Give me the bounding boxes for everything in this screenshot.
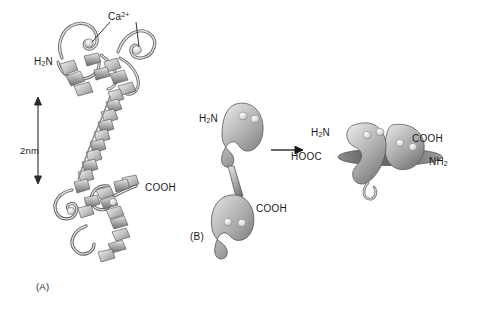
- panel-b-left-c-terminus-label: COOH: [256, 203, 287, 214]
- panel-a-graphics: [0, 0, 477, 311]
- panel-a-c-terminus-label: COOH: [145, 182, 176, 193]
- calcium-label: Ca2+: [108, 11, 130, 22]
- panel-a-n-terminus-label: H2N: [34, 56, 53, 67]
- scale-bar-label: 2nm: [20, 145, 39, 156]
- panel-b-right-hooc-label: HOOC: [291, 151, 322, 162]
- panel-b-extended-structure: [207, 103, 263, 260]
- panel-b-left-n-terminus-label: H2N: [199, 113, 218, 124]
- panel-a-central-helix: [74, 89, 124, 193]
- panel-a-label: (A): [36, 281, 49, 292]
- panel-b-label: (B): [190, 231, 204, 242]
- calmodulin-figure: Ca2+ H2N COOH 2nm (A) (B) H2N COOH H2N H…: [0, 0, 477, 311]
- panel-b-right-cooh-label: COOH: [412, 133, 443, 144]
- scale-bar: [35, 97, 42, 184]
- panel-b-right-n-terminus-label: H2N: [311, 127, 330, 138]
- panel-b-right-nh2-label: NH2: [429, 156, 448, 167]
